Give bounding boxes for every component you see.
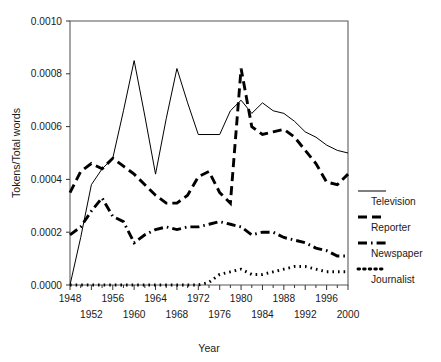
- series-layer: [70, 61, 348, 285]
- x-tick-label-lower: 1976: [208, 309, 231, 320]
- legend-label-reporter: Reporter: [371, 222, 411, 233]
- legend-item-television: Television: [358, 191, 416, 207]
- x-tick-label-lower: 1984: [251, 309, 274, 320]
- legend-label-journalist: Journalist: [371, 274, 415, 285]
- legend-label-newspaper: Newspaper: [371, 248, 423, 259]
- legend-item-journalist: Journalist: [358, 269, 415, 285]
- chart-figure: 0.00100.00080.00060.00040.00020.00001948…: [0, 0, 441, 362]
- series-line-journalist: [70, 267, 348, 285]
- x-tick-label-lower: 1952: [80, 309, 103, 320]
- line-chart: 0.00100.00080.00060.00040.00020.00001948…: [0, 0, 441, 362]
- axis-labels-layer: 0.00100.00080.00060.00040.00020.00001948…: [10, 16, 360, 354]
- x-tick-label-upper: 1948: [59, 293, 82, 304]
- x-tick-label-upper: 1996: [315, 293, 338, 304]
- y-axis-title: Tokens/Total words: [10, 108, 22, 198]
- chart-legend: TelevisionReporterNewspaperJournalist: [358, 191, 423, 285]
- legend-item-newspaper: Newspaper: [358, 243, 423, 259]
- y-tick-label: 0.0000: [31, 280, 62, 291]
- x-tick-label-upper: 1988: [273, 293, 296, 304]
- legend-item-reporter: Reporter: [358, 217, 411, 233]
- x-tick-label-lower: 2000: [337, 309, 360, 320]
- y-tick-label: 0.0004: [31, 174, 62, 185]
- x-axis-title: Year: [198, 342, 220, 354]
- y-tick-label: 0.0002: [31, 227, 62, 238]
- y-tick-label: 0.0010: [31, 16, 62, 27]
- legend-label-television: Television: [371, 196, 416, 207]
- y-tick-label: 0.0008: [31, 68, 62, 79]
- x-tick-label-lower: 1960: [123, 309, 146, 320]
- axes-layer: [66, 21, 348, 290]
- x-tick-label-lower: 1992: [294, 309, 317, 320]
- x-tick-label-upper: 1956: [101, 293, 124, 304]
- series-line-reporter: [70, 69, 348, 204]
- x-tick-label-lower: 1968: [166, 309, 189, 320]
- y-tick-label: 0.0006: [31, 121, 62, 132]
- x-tick-label-upper: 1964: [144, 293, 167, 304]
- series-line-newspaper: [70, 198, 348, 256]
- x-tick-label-upper: 1980: [230, 293, 253, 304]
- x-tick-label-upper: 1972: [187, 293, 210, 304]
